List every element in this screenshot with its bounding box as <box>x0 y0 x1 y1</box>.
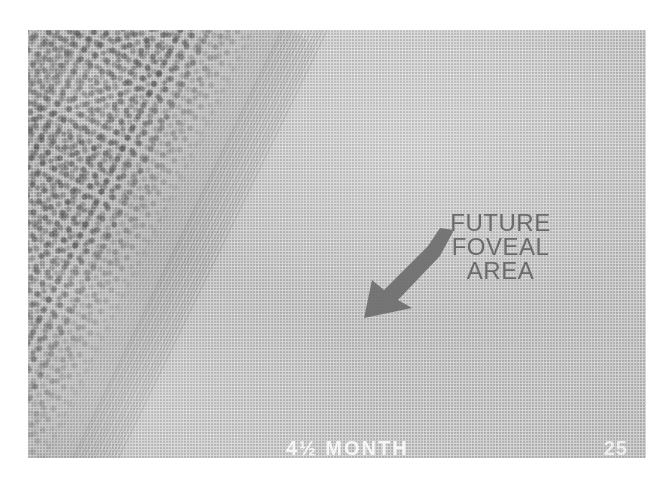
photomicrograph-plate: FUTURE FOVEAL AREA 4½ MONTH 25 <box>28 30 646 461</box>
annotation-label-line-1: FUTURE <box>413 211 588 235</box>
figure-root: FUTURE FOVEAL AREA 4½ MONTH 25 <box>0 0 667 480</box>
caption-age-label: 4½ MONTH <box>286 440 409 460</box>
annotation-label-line-2: FOVEAL <box>413 235 588 259</box>
page-bottom-margin <box>28 458 646 480</box>
annotation-label-line-3: AREA <box>413 259 588 283</box>
caption-page-number: 25 <box>604 440 628 460</box>
annotation-label: FUTURE FOVEAL AREA <box>413 211 588 283</box>
